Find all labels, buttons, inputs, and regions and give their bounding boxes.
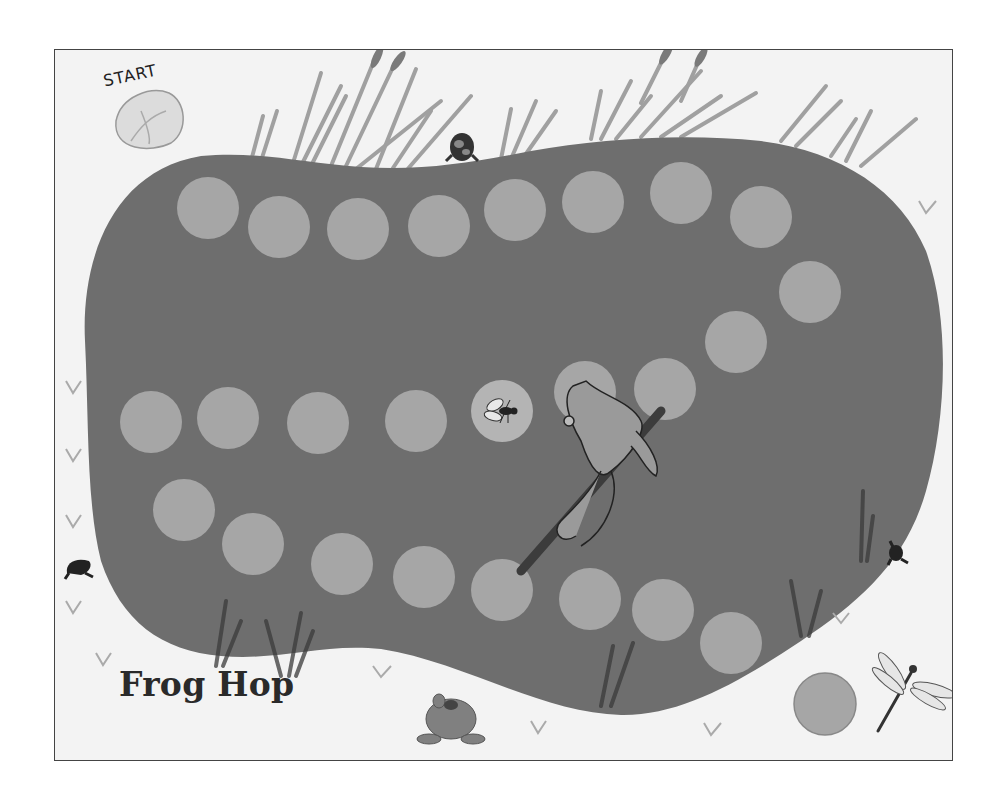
board-space-20[interactable] bbox=[311, 533, 373, 595]
board-space-1[interactable] bbox=[177, 177, 239, 239]
finish-space[interactable] bbox=[794, 673, 856, 735]
board-space-3[interactable] bbox=[327, 198, 389, 260]
start-lily-pad[interactable] bbox=[116, 91, 183, 149]
board-space-18[interactable] bbox=[153, 479, 215, 541]
board-space-16[interactable] bbox=[197, 387, 259, 449]
board-space-24[interactable] bbox=[632, 579, 694, 641]
board-space-6[interactable] bbox=[562, 171, 624, 233]
board-space-25[interactable] bbox=[700, 612, 762, 674]
board-space-23[interactable] bbox=[559, 568, 621, 630]
board-space-2[interactable] bbox=[248, 196, 310, 258]
board-space-5[interactable] bbox=[484, 179, 546, 241]
board-space-15[interactable] bbox=[287, 392, 349, 454]
game-board: START Frog Hop bbox=[54, 49, 953, 761]
board-space-8[interactable] bbox=[730, 186, 792, 248]
game-title: Frog Hop bbox=[119, 665, 294, 704]
board-space-14[interactable] bbox=[385, 390, 447, 452]
frog-left-icon bbox=[65, 560, 93, 579]
board-scene bbox=[55, 50, 953, 761]
frog-top-icon bbox=[446, 133, 478, 161]
board-space-9[interactable] bbox=[779, 261, 841, 323]
frog-bottom-icon bbox=[417, 694, 485, 744]
board-space-21[interactable] bbox=[393, 546, 455, 608]
board-space-10[interactable] bbox=[705, 311, 767, 373]
dragonfly-icon bbox=[869, 650, 953, 731]
board-space-17[interactable] bbox=[120, 391, 182, 453]
board-space-19[interactable] bbox=[222, 513, 284, 575]
board-space-7[interactable] bbox=[650, 162, 712, 224]
board-space-4[interactable] bbox=[408, 195, 470, 257]
